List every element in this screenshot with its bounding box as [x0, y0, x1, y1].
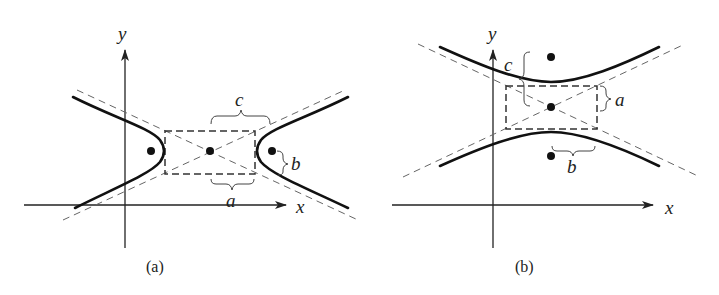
- center-point-b: [547, 103, 555, 111]
- asymptote-a-1: [77, 90, 358, 220]
- panel-b: x y c a b (b): [392, 23, 700, 276]
- brace-c-a: [211, 110, 270, 124]
- panel-a: x y c a b (a): [24, 23, 358, 276]
- focus-top-b: [547, 53, 555, 61]
- y-axis-label-b: y: [486, 23, 497, 44]
- focus-left-a: [147, 147, 155, 155]
- center-point-a: [206, 147, 214, 155]
- label-b-b: b: [567, 156, 577, 177]
- y-axis-label-a: y: [116, 23, 127, 44]
- caption-a: (a): [146, 258, 164, 276]
- x-axis-label-a: x: [295, 196, 305, 217]
- hyperbola-lower-branch-b: [440, 132, 659, 166]
- brace-a-b: [600, 86, 611, 111]
- hyperbola-upper-branch-b: [440, 47, 659, 82]
- label-c-a: c: [235, 89, 244, 110]
- brace-b-b: [552, 146, 595, 156]
- label-a-b: a: [615, 89, 625, 110]
- label-c-b: c: [504, 54, 513, 75]
- focus-bottom-b: [547, 152, 555, 160]
- label-a-a: a: [226, 190, 236, 211]
- focus-right-a: [268, 147, 276, 155]
- caption-b: (b): [515, 258, 534, 276]
- brace-a-a: [211, 179, 254, 190]
- x-axis-label-b: x: [664, 197, 674, 218]
- label-b-a: b: [291, 153, 301, 174]
- brace-b-a: [277, 151, 288, 175]
- figure-canvas: x y c a b (a) x y: [0, 0, 719, 295]
